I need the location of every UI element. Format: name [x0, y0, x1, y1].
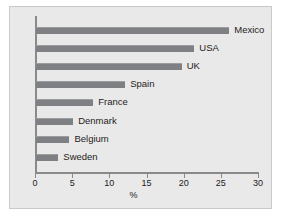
bar-category-label: France — [98, 96, 128, 108]
chart-figure: 051015202530 MexicoUSAUKSpainFranceDenma… — [0, 0, 283, 216]
bar — [36, 118, 73, 125]
x-tick-label: 10 — [97, 178, 121, 189]
y-axis-line — [35, 16, 37, 173]
bar-category-label: UK — [187, 60, 200, 72]
bar — [36, 27, 229, 34]
bar — [36, 45, 194, 52]
x-tick-label: 5 — [60, 178, 84, 189]
bar-category-label: Mexico — [234, 24, 264, 36]
bar-category-label: USA — [199, 42, 219, 54]
bar-category-label: Belgium — [74, 133, 108, 145]
bar — [36, 63, 182, 70]
bar-category-label: Denmark — [78, 115, 117, 127]
bar-category-label: Sweden — [63, 151, 97, 163]
x-tick-label: 0 — [23, 178, 47, 189]
plot-area: 051015202530 MexicoUSAUKSpainFranceDenma… — [0, 0, 283, 216]
x-tick-label: 25 — [209, 178, 233, 189]
x-axis-title: % — [0, 190, 283, 200]
bar — [36, 81, 125, 88]
bar — [36, 154, 58, 161]
x-axis-title-label: % — [129, 190, 137, 200]
x-tick-label: 20 — [172, 178, 196, 189]
x-tick-label: 30 — [246, 178, 270, 189]
bar-category-label: Spain — [130, 78, 154, 90]
bar — [36, 99, 93, 106]
x-tick-label: 15 — [135, 178, 159, 189]
bar — [36, 136, 69, 143]
